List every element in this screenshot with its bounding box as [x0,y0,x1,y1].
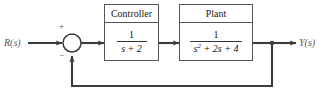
controller-denominator: s + 2 [117,43,146,55]
input-signal-label: R(s) [4,37,21,48]
plant-block-header: Plant [180,5,252,23]
controller-fraction-bar [117,41,147,42]
summing-junction-minus-sign: − [59,51,64,60]
controller-fraction: 1 s + 2 [117,29,147,55]
summing-junction-circle [63,34,81,52]
plant-denominator: s2 + 2s + 4 [190,43,243,55]
controller-transfer-function: 1 s + 2 [105,23,158,60]
controller-numerator: 1 [125,29,138,41]
block-diagram-canvas: R(s) Y(s) + − Controller 1 s + 2 Plant 1… [0,0,327,100]
plant-transfer-function: 1 s2 + 2s + 4 [180,23,252,60]
controller-denominator-rest: + 2 [125,43,142,54]
plant-fraction: 1 s2 + 2s + 4 [190,29,243,55]
plant-denominator-rest: + 2s + 4 [201,43,238,54]
diagram-wiring [0,0,327,100]
plant-block: Plant 1 s2 + 2s + 4 [179,4,253,61]
controller-block: Controller 1 s + 2 [104,4,159,61]
summing-junction-plus-sign: + [59,22,64,31]
controller-block-header: Controller [105,5,158,23]
output-signal-label: Y(s) [299,37,315,48]
plant-numerator: 1 [209,29,222,41]
